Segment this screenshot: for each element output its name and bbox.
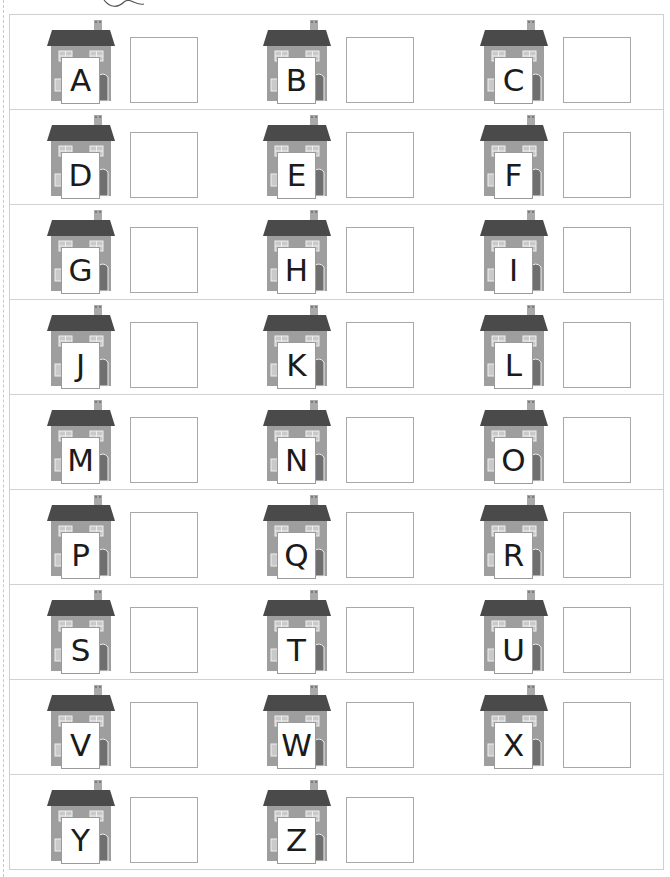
answer-box-v[interactable] <box>130 702 198 768</box>
answer-box-s[interactable] <box>130 607 198 673</box>
cut-line <box>3 0 4 877</box>
letter-card: W <box>277 722 316 769</box>
letter-cell-n: N <box>262 395 462 490</box>
letter-cell-p: P <box>46 490 246 585</box>
letter-cell-i: I <box>479 205 670 300</box>
worksheet: A <box>9 14 664 870</box>
answer-box-z[interactable] <box>346 797 414 863</box>
answer-box-q[interactable] <box>346 512 414 578</box>
house-icon: N <box>262 399 332 483</box>
letter-cell-s: S <box>46 585 246 680</box>
house-icon: B <box>262 19 332 103</box>
answer-box-b[interactable] <box>346 37 414 103</box>
house-icon: J <box>46 304 116 388</box>
worksheet-row: S <box>10 585 663 680</box>
letter-cell-r: R <box>479 490 670 585</box>
house-icon: Z <box>262 779 332 863</box>
answer-box-h[interactable] <box>346 227 414 293</box>
letter-cell-o: O <box>479 395 670 490</box>
letter-card: E <box>277 152 316 199</box>
house-icon: W <box>262 684 332 768</box>
house-icon: U <box>479 589 549 673</box>
letter-cell-f: F <box>479 110 670 205</box>
house-icon: X <box>479 684 549 768</box>
letter-cell-e: E <box>262 110 462 205</box>
answer-box-a[interactable] <box>130 37 198 103</box>
answer-box-p[interactable] <box>130 512 198 578</box>
house-icon: K <box>262 304 332 388</box>
letter-card: G <box>61 247 100 294</box>
answer-box-u[interactable] <box>563 607 631 673</box>
letter-cell-h: H <box>262 205 462 300</box>
worksheet-row: M <box>10 395 663 490</box>
letter-card: O <box>494 437 533 484</box>
house-icon: S <box>46 589 116 673</box>
letter-cell-y: Y <box>46 775 246 870</box>
letter-cell-z: Z <box>262 775 462 870</box>
letter-cell-l: L <box>479 300 670 395</box>
house-icon: E <box>262 114 332 198</box>
house-icon: F <box>479 114 549 198</box>
house-icon: A <box>46 19 116 103</box>
house-icon: G <box>46 209 116 293</box>
letter-card: A <box>61 57 100 104</box>
letter-cell-b: B <box>262 15 462 110</box>
letter-cell-w: W <box>262 680 462 775</box>
house-icon: P <box>46 494 116 578</box>
answer-box-i[interactable] <box>563 227 631 293</box>
house-icon: T <box>262 589 332 673</box>
answer-box-r[interactable] <box>563 512 631 578</box>
answer-box-c[interactable] <box>563 37 631 103</box>
answer-box-d[interactable] <box>130 132 198 198</box>
worksheet-row: Y <box>10 775 663 870</box>
house-icon: I <box>479 209 549 293</box>
letter-card: D <box>61 152 100 199</box>
worksheet-row: P <box>10 490 663 585</box>
worksheet-row: G <box>10 205 663 300</box>
letter-cell-x: X <box>479 680 670 775</box>
letter-cell-v: V <box>46 680 246 775</box>
answer-box-j[interactable] <box>130 322 198 388</box>
letter-card: K <box>277 342 316 389</box>
letter-cell-a: A <box>46 15 246 110</box>
letter-card: C <box>494 57 533 104</box>
letter-cell-d: D <box>46 110 246 205</box>
answer-box-n[interactable] <box>346 417 414 483</box>
house-icon: L <box>479 304 549 388</box>
answer-box-m[interactable] <box>130 417 198 483</box>
answer-box-o[interactable] <box>563 417 631 483</box>
answer-box-e[interactable] <box>346 132 414 198</box>
worksheet-row: D <box>10 110 663 205</box>
house-icon: H <box>262 209 332 293</box>
house-icon: V <box>46 684 116 768</box>
answer-box-t[interactable] <box>346 607 414 673</box>
letter-card: R <box>494 532 533 579</box>
house-icon: Q <box>262 494 332 578</box>
letter-card: Q <box>277 532 316 579</box>
house-icon: Y <box>46 779 116 863</box>
letter-card: T <box>277 627 316 674</box>
letter-cell-k: K <box>262 300 462 395</box>
answer-box-x[interactable] <box>563 702 631 768</box>
worksheet-row: A <box>10 15 663 110</box>
house-icon: R <box>479 494 549 578</box>
answer-box-g[interactable] <box>130 227 198 293</box>
scissors-decoration-icon <box>100 0 150 8</box>
answer-box-y[interactable] <box>130 797 198 863</box>
answer-box-w[interactable] <box>346 702 414 768</box>
letter-cell-c: C <box>479 15 670 110</box>
letter-cell-j: J <box>46 300 246 395</box>
letter-card: Y <box>61 817 100 864</box>
letter-card: N <box>277 437 316 484</box>
letter-cell-u: U <box>479 585 670 680</box>
answer-box-l[interactable] <box>563 322 631 388</box>
letter-card: U <box>494 627 533 674</box>
worksheet-row: V <box>10 680 663 775</box>
letter-card: L <box>494 342 533 389</box>
letter-card: Z <box>277 817 316 864</box>
letter-card: V <box>61 722 100 769</box>
house-icon: M <box>46 399 116 483</box>
answer-box-f[interactable] <box>563 132 631 198</box>
letter-cell-m: M <box>46 395 246 490</box>
answer-box-k[interactable] <box>346 322 414 388</box>
